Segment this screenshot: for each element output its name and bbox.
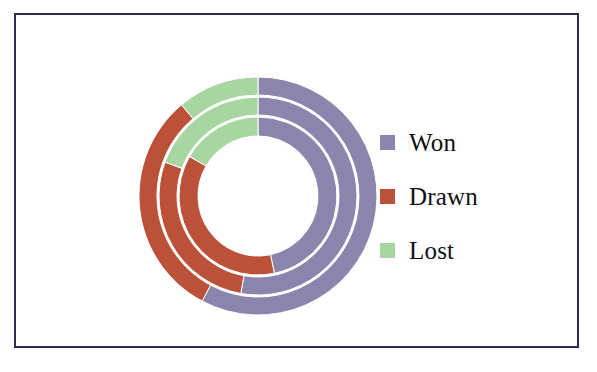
- legend-item-won[interactable]: Won: [380, 115, 550, 169]
- inner-ring: [179, 117, 337, 275]
- chart-legend: Won Drawn Lost: [380, 115, 550, 277]
- plot-area: Won Drawn Lost: [16, 15, 581, 350]
- legend-item-lost[interactable]: Lost: [380, 223, 550, 277]
- legend-swatch-lost: [380, 243, 395, 258]
- legend-label-won: Won: [409, 130, 456, 155]
- legend-swatch-drawn: [380, 189, 395, 204]
- donut-rings-group: [139, 77, 377, 315]
- legend-label-lost: Lost: [409, 238, 454, 263]
- figure-root: Won Drawn Lost: [0, 0, 597, 372]
- legend-item-drawn[interactable]: Drawn: [380, 169, 550, 223]
- chart-frame-border: Won Drawn Lost: [14, 13, 579, 348]
- legend-label-drawn: Drawn: [409, 184, 478, 209]
- legend-swatch-won: [380, 135, 395, 150]
